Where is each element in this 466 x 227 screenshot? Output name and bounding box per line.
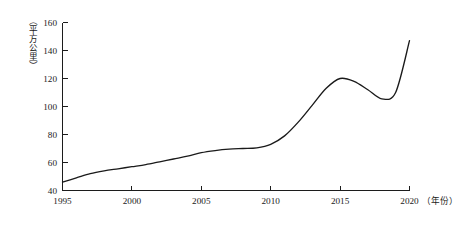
y-tick-label-140: 140 [43, 46, 57, 56]
x-axis-ticks [63, 186, 410, 191]
x-tick-label-1995: 1995 [53, 196, 72, 206]
x-tick-label-2010: 2010 [262, 196, 281, 206]
y-tick-label-80: 80 [48, 130, 58, 140]
x-axis-unit-label: （年份） [422, 195, 458, 206]
x-axis-tick-labels: 1995 2000 2005 2010 2015 2020 （年份） [53, 195, 458, 206]
y-tick-label-40: 40 [48, 186, 58, 196]
chart-container: （平方公里） 160 140 120 100 80 60 40 [0, 0, 466, 227]
y-tick-label-160: 160 [43, 18, 57, 28]
line-chart: 160 140 120 100 80 60 40 1995 2000 2005 … [0, 0, 466, 227]
y-tick-label-120: 120 [43, 74, 57, 84]
y-axis-ticks [63, 23, 68, 163]
x-tick-label-2020: 2020 [400, 196, 419, 206]
y-tick-label-100: 100 [43, 102, 57, 112]
y-axis-tick-labels: 160 140 120 100 80 60 40 [43, 18, 57, 196]
series-line-built-up-area [63, 41, 410, 182]
x-tick-label-2000: 2000 [123, 196, 142, 206]
x-tick-label-2015: 2015 [331, 196, 350, 206]
x-tick-label-2005: 2005 [192, 196, 211, 206]
y-tick-label-60: 60 [48, 158, 58, 168]
